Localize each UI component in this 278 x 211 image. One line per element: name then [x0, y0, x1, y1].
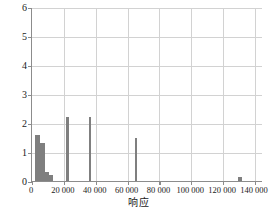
y-tick-label: 3	[1, 90, 27, 100]
y-axis-tick-labels: 0123456	[0, 8, 27, 182]
y-tick-mark	[28, 153, 32, 154]
x-tick-label: 40 000	[83, 186, 106, 195]
gridline-vertical	[223, 8, 224, 181]
residual-square-response-chart: 残差平方 0123456 020 00040 00060 00080 00010…	[0, 0, 278, 211]
x-tick-label: 20 000	[51, 186, 74, 195]
x-axis-title: 响应	[0, 197, 278, 208]
x-tick-label: 120 000	[208, 186, 236, 195]
y-tick-label: 6	[1, 3, 27, 13]
gridline-vertical	[255, 8, 256, 181]
bar	[89, 117, 92, 181]
gridline-vertical	[64, 8, 65, 181]
y-tick-label: 0	[1, 177, 27, 187]
bar	[66, 117, 69, 181]
gridline-vertical	[159, 8, 160, 181]
y-tick-mark	[28, 8, 32, 9]
gridline-horizontal	[32, 95, 262, 96]
bar	[238, 177, 242, 181]
y-tick-label: 4	[1, 61, 27, 71]
gridline-horizontal	[32, 37, 262, 38]
y-tick-mark	[28, 124, 32, 125]
x-tick-label: 100 000	[176, 186, 204, 195]
y-tick-mark	[28, 66, 32, 67]
x-tick-label: 80 000	[147, 186, 170, 195]
y-tick-mark	[28, 37, 32, 38]
x-tick-label: 0	[29, 186, 33, 195]
gridline-horizontal	[32, 66, 262, 67]
gridline-horizontal	[32, 8, 262, 9]
y-tick-label: 1	[1, 148, 27, 158]
bar	[49, 175, 53, 181]
x-tick-label: 60 000	[115, 186, 138, 195]
gridline-vertical	[128, 8, 129, 181]
plot-area	[31, 8, 262, 182]
bar	[135, 138, 138, 182]
x-tick-label: 140 000	[240, 186, 268, 195]
y-tick-label: 5	[1, 32, 27, 42]
gridline-vertical	[96, 8, 97, 181]
gridline-vertical	[191, 8, 192, 181]
y-tick-mark	[28, 95, 32, 96]
y-tick-label: 2	[1, 119, 27, 129]
